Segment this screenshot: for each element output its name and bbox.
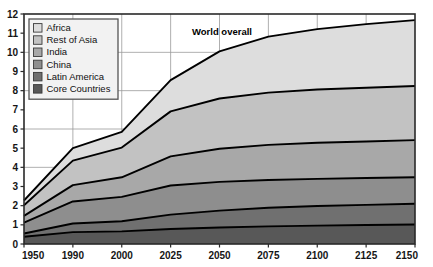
y-tick-label: 4 <box>12 162 18 173</box>
y-tick-label: 0 <box>12 239 18 250</box>
y-tick-label: 9 <box>12 66 18 77</box>
legend-swatch <box>34 24 43 32</box>
legend-swatch <box>34 72 43 81</box>
legend-label: India <box>47 46 68 57</box>
chart-canvas: 0123456789101112195019902000202520502075… <box>0 0 433 267</box>
legend-label: Core Countries <box>47 83 111 94</box>
y-tick-label: 1 <box>12 219 18 230</box>
legend-swatch <box>34 36 43 45</box>
y-tick-label: 7 <box>12 104 18 115</box>
x-tick-label: 2150 <box>396 250 419 261</box>
y-tick-label: 3 <box>12 181 18 192</box>
y-tick-label: 10 <box>7 47 19 58</box>
legend-swatch <box>34 85 43 94</box>
legend-label: Africa <box>47 22 72 33</box>
x-tick-label: 2125 <box>355 250 378 261</box>
legend-label: China <box>47 59 73 70</box>
y-tick-label: 6 <box>12 124 18 135</box>
legend-swatch <box>34 60 43 68</box>
y-tick-label: 2 <box>12 200 18 211</box>
x-tick-label: 1950 <box>22 250 45 261</box>
x-tick-label: 1990 <box>62 250 85 261</box>
world-overall-annotation: World overall <box>192 26 252 37</box>
legend-label: Rest of Asia <box>47 34 98 45</box>
y-tick-label: 8 <box>12 85 18 96</box>
y-tick-label: 12 <box>7 9 19 20</box>
x-tick-label: 2000 <box>111 250 134 261</box>
x-tick-label: 2100 <box>306 250 329 261</box>
y-tick-label: 11 <box>7 28 18 39</box>
x-tick-label: 2075 <box>257 250 280 261</box>
y-tick-label: 5 <box>12 143 18 154</box>
stacked-area-chart: 0123456789101112195019902000202520502075… <box>0 0 433 267</box>
x-tick-label: 2050 <box>208 250 231 261</box>
legend-label: Latin America <box>47 71 105 82</box>
legend-swatch <box>34 48 43 57</box>
x-tick-label: 2025 <box>160 250 183 261</box>
